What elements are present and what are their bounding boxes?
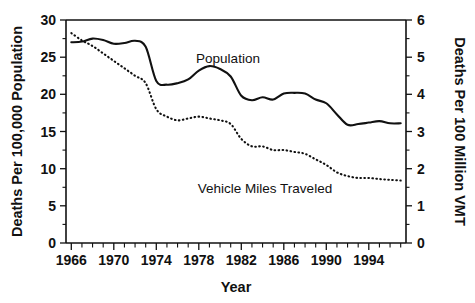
x-tick-label: 1978 <box>183 252 214 268</box>
y-axis-left-title: Deaths Per 100,000 Population <box>9 26 25 237</box>
chart-container: 0 5 10 15 20 25 <box>0 0 475 303</box>
y-right-tick-label: 4 <box>417 86 425 102</box>
y-left-tick-label: 0 <box>48 235 56 251</box>
series-annotation-vehicle-miles-traveled: Vehicle Miles Traveled <box>198 181 332 196</box>
y-right-tick-label: 6 <box>417 12 425 28</box>
y-left-tick-label: 5 <box>48 198 56 214</box>
x-tick-label: 1974 <box>141 252 172 268</box>
series-annotation-population: Population <box>196 51 260 66</box>
y-right-tick-label: 3 <box>417 124 425 140</box>
y-right-tick-label: 1 <box>417 198 425 214</box>
y-axis-right-title: Deaths Per 100 Million VMT <box>452 37 468 226</box>
x-tick-label: 1966 <box>56 252 87 268</box>
x-tick-label: 1990 <box>311 252 342 268</box>
y-right-tick-label: 2 <box>417 161 425 177</box>
x-tick-label: 1982 <box>226 252 257 268</box>
y-left-tick-label: 30 <box>40 12 56 28</box>
y-right-tick-label: 5 <box>417 49 425 65</box>
y-left-tick-label: 25 <box>40 49 56 65</box>
y-left-tick-label: 10 <box>40 161 56 177</box>
x-tick-label: 1986 <box>268 252 299 268</box>
y-right-tick-label: 0 <box>417 235 425 251</box>
y-left-tick-label: 15 <box>40 124 56 140</box>
y-left-tick-label: 20 <box>40 86 56 102</box>
x-axis-title: Year <box>221 279 252 295</box>
x-tick-label: 1994 <box>353 252 384 268</box>
x-tick-label: 1970 <box>98 252 129 268</box>
line-chart: 0 5 10 15 20 25 <box>0 0 475 303</box>
